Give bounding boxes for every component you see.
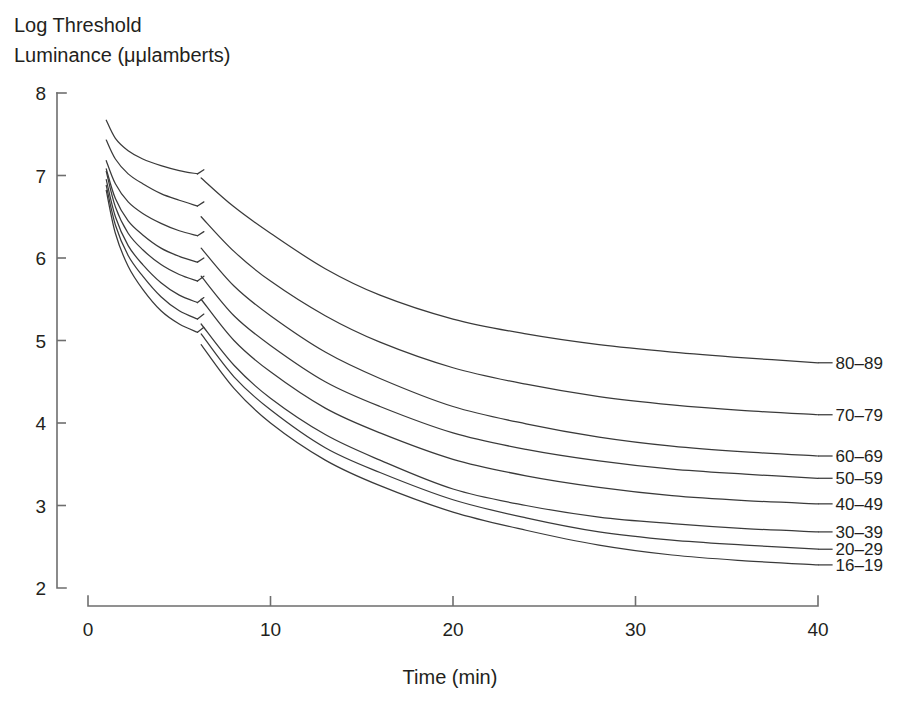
series-label: 80–89 <box>836 354 883 373</box>
series-label: 30–39 <box>836 523 883 542</box>
x-axis-tick-label: 10 <box>260 619 281 640</box>
series-label-group: 80–8970–7960–6950–5940–4930–3920–2916–19 <box>818 354 883 575</box>
rod-cone-break-tick <box>198 232 204 236</box>
rod-branch-curve <box>201 324 818 532</box>
curve-series <box>106 171 818 503</box>
y-axis-tick-label: 7 <box>35 166 46 187</box>
rod-branch-curve <box>201 217 818 415</box>
curve-series <box>106 140 818 415</box>
cone-branch-curve <box>106 180 197 303</box>
series-label: 50–59 <box>836 469 883 488</box>
x-axis-title: Time (min) <box>0 666 900 689</box>
y-axis-tick-label: 2 <box>35 578 46 599</box>
series-label: 70–79 <box>836 406 883 425</box>
cone-branch-curve <box>106 140 197 206</box>
y-axis-title: Log Threshold Luminance (μμlamberts) <box>14 10 230 70</box>
x-axis-tick-label: 40 <box>807 619 828 640</box>
rod-branch-curve <box>201 345 818 565</box>
rod-branch-curve <box>201 276 818 478</box>
chart-figure: Log Threshold Luminance (μμlamberts) 234… <box>0 0 900 723</box>
x-axis-tick-label: 0 <box>83 619 94 640</box>
curve-series-group <box>106 120 818 565</box>
series-label: 60–69 <box>836 447 883 466</box>
rod-cone-break-tick <box>198 202 204 206</box>
curve-series <box>106 169 818 478</box>
series-label: 40–49 <box>836 495 883 514</box>
y-axis-title-line-1: Log Threshold <box>14 10 230 40</box>
rod-cone-break-tick <box>198 314 204 319</box>
curve-series <box>106 190 818 565</box>
rod-cone-break-tick <box>198 170 204 174</box>
rod-branch-curve <box>201 178 818 363</box>
y-axis-tick-label: 3 <box>35 496 46 517</box>
x-axis-tick-label: 30 <box>625 619 646 640</box>
rod-branch-curve <box>201 248 818 456</box>
y-axis-tick-label: 4 <box>35 413 46 434</box>
y-axis-tick-label: 8 <box>35 83 46 104</box>
cone-branch-curve <box>106 185 197 319</box>
series-label: 16–19 <box>836 556 883 575</box>
y-axis-tick-label: 6 <box>35 248 46 269</box>
curve-series <box>106 161 818 456</box>
y-axis-title-line-2: Luminance (μμlamberts) <box>14 40 230 70</box>
rod-cone-break-tick <box>198 327 204 332</box>
line-chart-plot: 2345678010203040 80–8970–7960–6950–5940–… <box>0 0 900 723</box>
rod-branch-curve <box>201 334 818 549</box>
y-axis-tick-label: 5 <box>35 331 46 352</box>
cone-branch-curve <box>106 190 197 332</box>
curve-series <box>106 185 818 549</box>
x-axis-tick-label: 20 <box>442 619 463 640</box>
rod-cone-break-tick <box>198 258 204 262</box>
curve-series <box>106 120 818 363</box>
cone-branch-curve <box>106 171 197 281</box>
